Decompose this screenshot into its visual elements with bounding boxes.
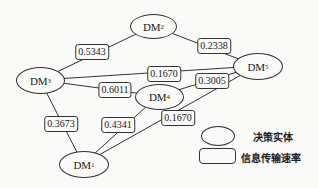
rate-label-dm3-dm1: 0.3673 bbox=[44, 116, 78, 132]
rate-label-dm4-dm5: 0.3005 bbox=[195, 73, 229, 89]
legend-entity-label: 决策实体 bbox=[253, 129, 293, 144]
node-dm5: DM5 bbox=[233, 53, 283, 80]
node-dm2: DM2 bbox=[130, 14, 177, 39]
node-dm5-base: DM bbox=[247, 61, 265, 73]
node-dm3: DM3 bbox=[16, 67, 65, 94]
node-dm4-base: DM bbox=[149, 91, 167, 103]
rate-label-dm1-dm5: 0.1670 bbox=[161, 110, 195, 126]
node-dm4: DM4 bbox=[135, 84, 184, 110]
node-dm2-sub: 2 bbox=[161, 23, 165, 31]
legend-rate-rect-icon bbox=[199, 148, 236, 164]
node-dm3-sub: 3 bbox=[48, 77, 52, 85]
node-dm3-base: DM bbox=[30, 75, 48, 87]
rate-label-dm3-dm5: 0.1670 bbox=[147, 66, 181, 82]
node-dm4-sub: 4 bbox=[167, 93, 171, 101]
node-dm1-base: DM bbox=[73, 159, 91, 171]
node-dm5-sub: 5 bbox=[265, 63, 269, 71]
node-dm2-base: DM bbox=[143, 21, 161, 33]
rate-label-dm3-dm4: 0.6011 bbox=[98, 82, 131, 98]
rate-label-dm3-dm2: 0.5343 bbox=[75, 44, 109, 60]
rate-label-dm1-dm4: 0.4341 bbox=[101, 117, 135, 133]
node-dm1: DM1 bbox=[59, 151, 109, 178]
legend-rate-label: 信息传输速率 bbox=[241, 150, 301, 165]
rate-label-dm2-dm5: 0.2338 bbox=[197, 38, 231, 54]
legend-entity-ellipse-icon bbox=[201, 126, 235, 146]
node-dm1-sub: 1 bbox=[91, 161, 95, 169]
